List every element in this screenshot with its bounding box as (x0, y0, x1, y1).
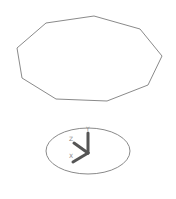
y-axis-label: Y (85, 125, 90, 132)
x-axis-icon (73, 153, 88, 162)
3d-viewport[interactable]: Y Z X (0, 0, 176, 199)
z-axis-icon (74, 143, 88, 153)
z-axis-label: Z (69, 135, 73, 142)
nonagon-shape[interactable] (17, 16, 162, 101)
x-axis-label: X (69, 152, 73, 159)
orientation-gizmo[interactable]: Y Z X (46, 125, 130, 174)
